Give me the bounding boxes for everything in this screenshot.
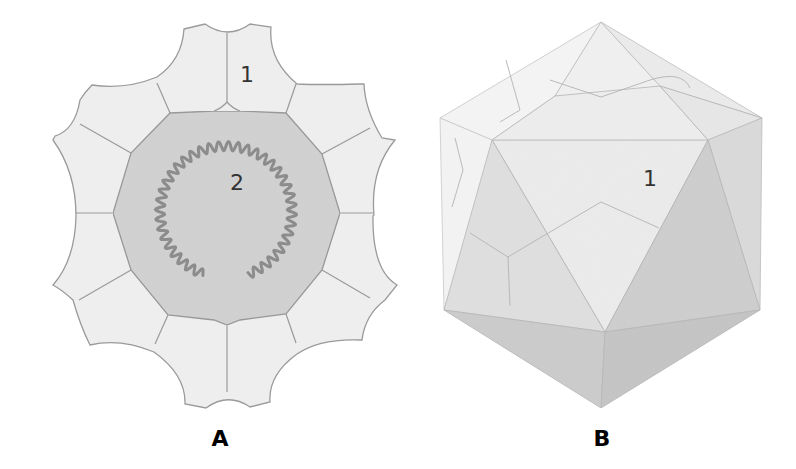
panel-label-b: B [594,426,611,451]
callout-1-b: 1 [643,166,657,191]
panel-a-cross-section: 1 2 [53,24,397,408]
callout-2-a: 2 [230,170,244,195]
callout-1-a: 1 [240,62,254,87]
panel-b-icosahedron: 1 [440,22,762,408]
panel-label-a: A [211,426,228,451]
